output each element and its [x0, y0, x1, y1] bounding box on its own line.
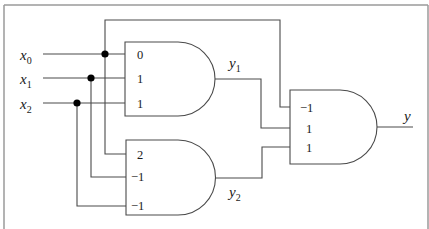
input-label-x0: x0 [19, 47, 32, 66]
output-label-y2: y2 [227, 184, 241, 203]
output-label-y: y [402, 108, 411, 124]
wire-x0-to-gate2 [105, 54, 126, 154]
wire-y2-to-gate3 [215, 147, 290, 178]
gate2-weight-1: −1 [131, 170, 144, 184]
wire-x1-to-gate2 [91, 78, 126, 177]
gate2-weight-0: 2 [137, 148, 143, 162]
logic-circuit-diagram: x0 x1 x2 0 1 1 y1 2 −1 −1 y2 [0, 0, 429, 229]
svg-text:x0: x0 [19, 47, 32, 66]
gate2-weight-2: −1 [131, 199, 144, 213]
gate1-weight-2: 1 [137, 97, 143, 111]
output-label-y1: y1 [227, 55, 241, 74]
junction-dot-x1 [87, 74, 94, 81]
gate1-weight-1: 1 [137, 72, 143, 86]
svg-text:x1: x1 [19, 71, 32, 90]
svg-text:y: y [402, 108, 411, 124]
gate3-weight-2: 1 [306, 141, 312, 155]
wire-y1-to-gate3 [215, 79, 290, 128]
and-gate-3: −1 1 1 [290, 90, 377, 164]
gate1-weight-0: 0 [137, 48, 143, 62]
gate3-weight-0: −1 [300, 101, 313, 115]
input-label-x1: x1 [19, 71, 32, 90]
svg-text:x2: x2 [19, 96, 32, 115]
svg-text:y2: y2 [227, 184, 241, 203]
and-gate-2: 2 −1 −1 [126, 140, 216, 215]
gate3-weight-1: 1 [306, 122, 312, 136]
input-label-x2: x2 [19, 96, 32, 115]
and-gate-1: 0 1 1 [125, 42, 215, 116]
junction-dot-x0 [101, 50, 108, 57]
svg-text:y1: y1 [227, 55, 241, 74]
junction-dot-x2 [73, 99, 80, 106]
